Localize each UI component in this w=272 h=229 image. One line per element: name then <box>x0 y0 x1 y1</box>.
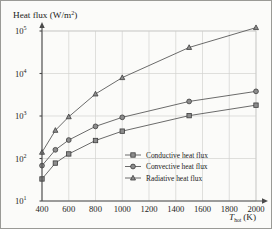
x-tick-label: 1000 <box>114 204 131 214</box>
data-point-marker <box>93 124 98 129</box>
y-axis-arrowhead <box>39 22 44 28</box>
legend-marker <box>131 164 136 169</box>
y-tick-label: 104 <box>15 68 27 79</box>
data-point-marker <box>53 161 57 165</box>
chart-legend: Conductive heat fluxConvective heat flux… <box>125 151 208 183</box>
x-tick-label: 800 <box>89 204 102 214</box>
legend-marker <box>131 153 135 157</box>
data-point-marker <box>93 91 98 96</box>
data-point-marker <box>187 99 192 104</box>
data-point-marker <box>93 138 97 142</box>
data-point-marker <box>187 113 191 117</box>
data-point-marker <box>67 152 71 156</box>
x-tick-label: 1600 <box>194 204 211 214</box>
y-tick-label-group: 101102103104105 <box>15 25 42 206</box>
x-tick-label: 1400 <box>167 204 184 214</box>
x-tick-label: 1200 <box>140 204 157 214</box>
y-tick-label: 101 <box>15 195 27 206</box>
legend-item-circle: Convective heat flux <box>125 162 208 171</box>
data-point-marker <box>66 138 71 143</box>
x-axis-arrowhead <box>262 198 268 203</box>
data-point-marker <box>254 103 258 107</box>
data-point-marker <box>120 129 124 133</box>
x-tick-label: 400 <box>36 204 49 214</box>
legend-label: Convective heat flux <box>146 162 208 171</box>
x-axis-title: Thot(K) <box>229 212 256 223</box>
legend-label: Radiative heat flux <box>146 174 203 183</box>
heat-flux-log-chart: 101102103104105 400600800100012001400160… <box>1 1 272 229</box>
y-tick-label: 103 <box>15 110 27 121</box>
data-point-marker <box>120 115 125 120</box>
data-point-marker <box>254 25 259 30</box>
legend-item-triangle: Radiative heat flux <box>125 174 203 183</box>
chart-figure: 101102103104105 400600800100012001400160… <box>0 0 272 229</box>
data-point-marker <box>254 89 259 94</box>
data-point-marker <box>53 147 58 152</box>
y-axis-title: Heat flux (W/m2) <box>13 10 77 20</box>
legend-label: Conductive heat flux <box>146 151 208 160</box>
y-tick-label: 102 <box>15 153 27 164</box>
y-tick-label: 105 <box>15 25 27 36</box>
x-tick-label: 600 <box>62 204 75 214</box>
